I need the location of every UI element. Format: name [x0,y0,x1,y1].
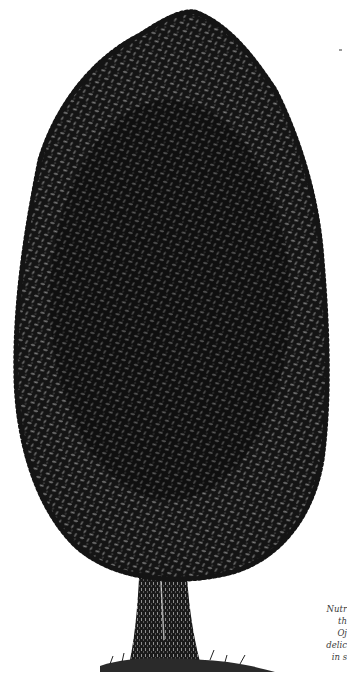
caption-line: Oj [291,627,347,639]
tree-illustration [0,0,347,676]
caption-line: Nutr [291,603,347,615]
canopy [16,12,327,579]
caption-line: th [291,615,347,627]
paper-speck [339,49,342,51]
caption-fragment: Nutr th Oj delic in s [291,603,347,663]
caption-line: in s [291,651,347,663]
caption-line: delic [291,639,347,651]
